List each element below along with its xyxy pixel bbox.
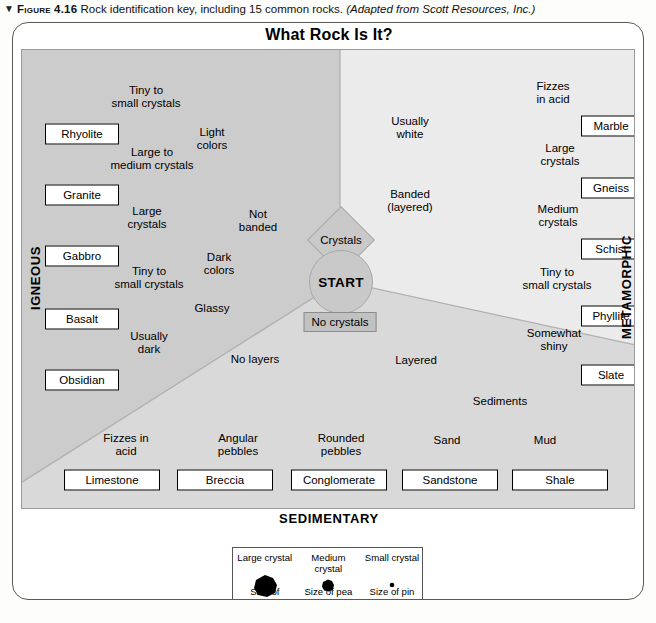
rock-box-conglomerate[interactable]: Conglomerate	[291, 470, 387, 491]
figure-number: Figure 4.16	[17, 3, 77, 15]
rock-box-marble[interactable]: Marble	[581, 116, 635, 137]
label-sand: Sand	[434, 434, 461, 447]
page-title: What Rock Is It?	[13, 26, 644, 44]
crystal-size-legend: Large crystal Size of fingernail Medium …	[232, 547, 423, 600]
label-fizzes-in-acid-marble: Fizzes in acid	[536, 80, 569, 105]
label-not-banded: Not banded	[239, 208, 277, 233]
start-node-label: START	[310, 251, 372, 313]
caption-text: Rock identification key, including 15 co…	[80, 3, 343, 15]
label-dark-colors: Dark colors	[204, 251, 235, 276]
legend-footer-small: Size of pin head	[360, 586, 424, 600]
decision-node-crystals-label: Crystals	[320, 234, 362, 246]
label-large-crystals-gneiss: Large crystals	[541, 142, 580, 167]
label-tiny-small-crystals-phyllite: Tiny to small crystals	[522, 266, 591, 291]
rock-box-obsidian[interactable]: Obsidian	[45, 370, 119, 391]
caption-marker-icon: ▼	[4, 3, 14, 14]
label-fizzes-in-acid-limestone: Fizzes in acid	[103, 432, 148, 457]
figure-caption: ▼ Figure 4.16 Rock identification key, i…	[4, 3, 652, 21]
rock-box-slate[interactable]: Slate	[581, 365, 635, 386]
label-glassy: Glassy	[194, 302, 229, 315]
legend-column-medium: Medium crystal Size of pea	[297, 548, 361, 600]
diagram-plate: IGNEOUS Rhyolite Granite Gabbro Basalt O…	[21, 49, 635, 509]
rock-box-breccia[interactable]: Breccia	[177, 470, 273, 491]
legend-heading-medium: Medium crystal	[297, 552, 361, 574]
label-medium-crystals-schist: Medium crystals	[538, 203, 579, 228]
rock-box-sandstone[interactable]: Sandstone	[402, 470, 498, 491]
label-layered: Layered	[395, 354, 437, 367]
label-mud: Mud	[534, 434, 556, 447]
label-banded-layered: Banded (layered)	[387, 188, 432, 213]
start-node[interactable]: START	[309, 250, 373, 314]
decision-node-no-crystals[interactable]: No crystals	[304, 312, 377, 332]
label-light-colors: Light colors	[197, 126, 228, 151]
label-sediments: Sediments	[473, 395, 527, 408]
label-large-crystals-gabbro: Large crystals	[128, 205, 167, 230]
label-usually-dark-obsidian: Usually dark	[130, 330, 168, 355]
figure-frame: What Rock Is It?	[12, 22, 644, 600]
rock-box-rhyolite[interactable]: Rhyolite	[45, 124, 119, 145]
rock-box-gneiss[interactable]: Gneiss	[581, 178, 635, 199]
label-large-medium-crystals-granite: Large to medium crystals	[110, 146, 193, 171]
rock-box-basalt[interactable]: Basalt	[45, 309, 119, 330]
rock-box-shale[interactable]: Shale	[512, 470, 608, 491]
caption-source: (Adapted from Scott Resources, Inc.)	[346, 3, 535, 15]
label-somewhat-shiny-slate: Somewhat shiny	[527, 327, 581, 352]
label-tiny-small-crystals-basalt: Tiny to small crystals	[114, 265, 183, 290]
label-usually-white: Usually white	[391, 115, 429, 140]
legend-footer-medium: Size of pea	[297, 586, 361, 597]
label-rounded-pebbles: Rounded pebbles	[318, 432, 365, 457]
label-no-layers: No layers	[231, 353, 280, 366]
legend-column-small: Small crystal Size of pin head	[360, 548, 424, 600]
rock-box-granite[interactable]: Granite	[45, 185, 119, 206]
rock-box-gabbro[interactable]: Gabbro	[45, 246, 119, 267]
category-label-metamorphic: METAMORPHIC	[619, 235, 634, 339]
label-tiny-small-crystals-rhyolite: Tiny to small crystals	[111, 84, 180, 109]
category-label-sedimentary: SEDIMENTARY	[279, 511, 379, 526]
legend-footer-large: Size of fingernail	[233, 586, 297, 600]
legend-heading-large: Large crystal	[233, 552, 297, 563]
legend-heading-small: Small crystal	[360, 552, 424, 563]
category-label-igneous: IGNEOUS	[28, 246, 43, 310]
legend-column-large: Large crystal Size of fingernail	[233, 548, 297, 600]
rock-box-limestone[interactable]: Limestone	[64, 470, 160, 491]
label-angular-pebbles: Angular pebbles	[218, 432, 258, 457]
